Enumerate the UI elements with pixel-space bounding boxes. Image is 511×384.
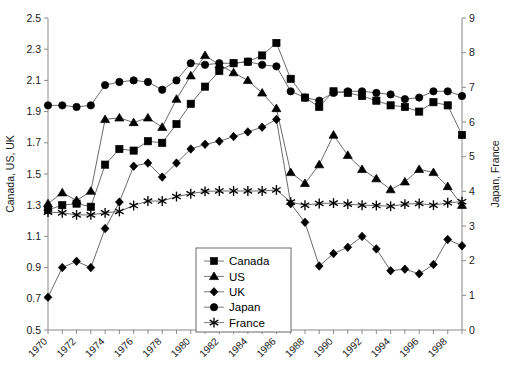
marker-circle [210, 304, 217, 311]
marker-square [430, 99, 437, 106]
marker-triangle [415, 165, 424, 173]
marker-triangle [158, 123, 167, 131]
marker-diamond [201, 140, 209, 149]
marker-circle [130, 77, 137, 84]
marker-square [102, 161, 109, 168]
marker-circle [159, 86, 166, 93]
marker-asterisk [129, 201, 138, 211]
marker-square [444, 102, 451, 109]
marker-diamond [244, 128, 252, 137]
y-axis-left-tick-label: 1.1 [26, 230, 41, 242]
marker-triangle [86, 187, 95, 195]
y-axis-left-tick-label: 2.1 [26, 74, 41, 86]
y-axis-left-title: Canada, US, UK [4, 135, 16, 213]
marker-diamond [87, 263, 95, 272]
marker-circle [301, 94, 308, 101]
x-axis-tick-label: 1984 [226, 335, 250, 359]
marker-diamond [130, 162, 138, 171]
y-axis-right-tick-label: 0 [469, 324, 475, 336]
marker-circle [187, 60, 194, 67]
y-axis-left-tick-label: 0.7 [26, 292, 41, 304]
x-axis-tick-label: 1996 [397, 335, 421, 359]
marker-square [216, 67, 223, 74]
marker-circle [87, 102, 94, 109]
marker-circle [116, 78, 123, 85]
marker-diamond [101, 224, 109, 233]
marker-circle [330, 89, 337, 96]
series-line-japan [48, 62, 462, 107]
marker-square [87, 203, 94, 210]
marker-circle [144, 78, 151, 85]
marker-triangle [115, 113, 124, 121]
marker-circle [316, 97, 323, 104]
legend-label: France [229, 317, 265, 329]
marker-square [458, 131, 465, 138]
marker-triangle [186, 71, 195, 79]
marker-diamond [430, 260, 438, 269]
marker-circle [287, 88, 294, 95]
marker-square [159, 139, 166, 146]
marker-diamond [458, 242, 466, 251]
marker-circle [430, 88, 437, 95]
marker-square [259, 52, 266, 59]
y-axis-right-tick-label: 8 [469, 46, 475, 58]
series-japan [44, 58, 465, 111]
marker-circle [101, 81, 108, 88]
marker-diamond [444, 235, 452, 244]
marker-circle [416, 94, 423, 101]
marker-triangle [58, 188, 67, 196]
marker-circle [230, 60, 237, 67]
marker-circle [216, 60, 223, 67]
y-axis-right-tick-label: 2 [469, 254, 475, 266]
marker-diamond [215, 137, 223, 146]
y-axis-left-tick-label: 1.3 [26, 199, 41, 211]
marker-square [201, 83, 208, 90]
x-axis-tick-label: 1974 [83, 335, 107, 359]
x-axis-tick-label: 1998 [426, 335, 450, 359]
marker-square [416, 108, 423, 115]
marker-square [273, 39, 280, 46]
marker-circle [373, 89, 380, 96]
legend-label: Japan [229, 301, 260, 313]
y-axis-left-tick-label: 1.7 [26, 136, 41, 148]
marker-triangle [172, 95, 181, 103]
legend: CanadaUSUKJapanFrance [196, 248, 291, 332]
marker-circle [59, 102, 66, 109]
legend-label: US [229, 271, 245, 283]
x-axis-tick-label: 1980 [169, 335, 193, 359]
marker-circle [173, 77, 180, 84]
marker-square [173, 120, 180, 127]
y-axis-right-tick-label: 4 [469, 185, 475, 197]
marker-circle [201, 61, 208, 68]
y-axis-left-tick-label: 2.5 [26, 12, 41, 24]
marker-diamond [415, 270, 423, 279]
x-axis-tick-label: 1978 [140, 335, 164, 359]
series-france [44, 185, 467, 220]
series-line-us [48, 55, 462, 205]
marker-triangle [229, 68, 238, 76]
legend-label: UK [229, 286, 245, 298]
marker-square [211, 258, 218, 265]
marker-triangle [372, 174, 381, 182]
marker-square [401, 103, 408, 110]
x-axis-tick-label: 1982 [197, 335, 221, 359]
x-axis-tick-label: 1986 [254, 335, 278, 359]
x-axis-tick-label: 1976 [112, 335, 136, 359]
marker-diamond [230, 132, 238, 141]
marker-triangle [343, 151, 352, 159]
marker-triangle [201, 51, 210, 59]
y-axis-left-tick-label: 0.9 [26, 261, 41, 273]
marker-asterisk [172, 192, 181, 202]
marker-asterisk [286, 197, 295, 207]
x-axis-tick-label: 1988 [283, 335, 307, 359]
marker-circle [344, 88, 351, 95]
marker-square [130, 147, 137, 154]
marker-diamond [258, 123, 266, 132]
x-axis-tick-label: 1992 [340, 335, 364, 359]
y-axis-right-tick-label: 9 [469, 12, 475, 24]
marker-circle [401, 95, 408, 102]
marker-square [373, 97, 380, 104]
y-axis-right-tick-label: 7 [469, 81, 475, 93]
legend-label: Canada [229, 255, 270, 267]
marker-triangle [329, 131, 338, 139]
